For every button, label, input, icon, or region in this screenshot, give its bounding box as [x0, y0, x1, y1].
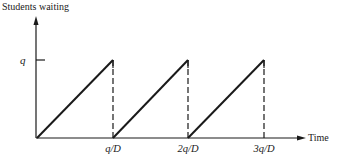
x-axis-arrowhead-icon [297, 136, 306, 141]
drop-lines [113, 60, 264, 138]
y-tick-label-q: q [20, 54, 26, 66]
ramp-3 [188, 60, 264, 138]
x-axis-title: Time [308, 132, 329, 143]
sawtooth-chart [0, 0, 344, 160]
sawtooth-series [37, 60, 264, 138]
y-axis-arrowhead-icon [34, 16, 39, 25]
ramp-1 [37, 60, 113, 138]
drop-tops [113, 60, 264, 68]
ramp-2 [113, 60, 188, 138]
y-axis-title: Students waiting [2, 1, 69, 12]
x-tick-label-q-over-d: q/D [105, 143, 121, 154]
x-tick-label-2q-over-d: 2q/D [178, 143, 199, 154]
x-tick-label-3q-over-d: 3q/D [254, 143, 275, 154]
